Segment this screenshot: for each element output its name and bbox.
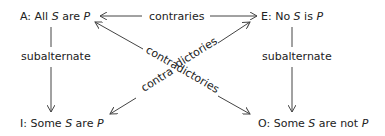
node-a: A: All S are P bbox=[20, 10, 90, 23]
label-subalternate-right: subalternate bbox=[262, 50, 332, 63]
node-i: I: Some S are P bbox=[20, 117, 104, 130]
arrow-contradictories-to-e bbox=[218, 22, 250, 43]
label-contradictories-e-i-part2: dictories bbox=[173, 34, 220, 70]
arrow-contradictories-to-i bbox=[110, 98, 136, 114]
label-contraries: contraries bbox=[149, 10, 205, 23]
node-e: E: No S is P bbox=[261, 10, 323, 23]
arrow-contradictories-to-a bbox=[95, 22, 143, 49]
node-o: O: Some S are not P bbox=[258, 117, 369, 130]
arrow-contradictories-to-o bbox=[218, 96, 250, 114]
label-contradictories-e-i-part1: contra bbox=[139, 65, 176, 95]
label-subalternate-left: subalternate bbox=[21, 50, 91, 63]
square-of-opposition: A: All S are P E: No S is P I: Some S ar… bbox=[0, 0, 385, 136]
